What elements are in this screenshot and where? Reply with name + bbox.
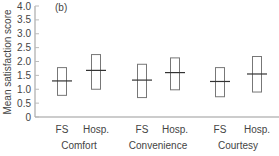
- y-tick-label: 2.0: [17, 56, 31, 67]
- y-tick-label: 0.5: [17, 98, 31, 109]
- y-tick-label: 3.5: [17, 14, 31, 25]
- group-label: Courtesy: [218, 140, 258, 151]
- y-tick-label: 1.5: [17, 70, 31, 81]
- group-label: Convenience: [129, 140, 188, 151]
- y-tick-label: 3.0: [17, 28, 31, 39]
- box: [171, 58, 180, 90]
- y-axis-label: Mean satisfaction score: [2, 9, 13, 114]
- axes: 00.51.01.52.02.53.03.54.0: [17, 1, 279, 123]
- x-tick-label: Hosp.: [244, 124, 270, 135]
- group-label: Comfort: [61, 140, 97, 151]
- y-tick-label: 2.5: [17, 42, 31, 53]
- y-tick-label: 1.0: [17, 84, 31, 95]
- box: [92, 55, 101, 90]
- x-tick-label: Hosp.: [162, 124, 188, 135]
- box: [138, 64, 147, 97]
- y-tick-label: 0: [25, 112, 31, 123]
- boxes: [52, 55, 267, 98]
- x-tick-label: FS: [56, 124, 69, 135]
- x-labels: FSHosp.ComfortFSHosp.ConvenienceFSHosp.C…: [56, 124, 270, 151]
- panel-label: (b): [55, 2, 67, 13]
- x-tick-label: FS: [214, 124, 227, 135]
- x-tick-label: FS: [136, 124, 149, 135]
- box: [216, 68, 225, 97]
- y-tick-label: 4.0: [17, 1, 31, 12]
- x-tick-label: Hosp.: [83, 124, 109, 135]
- box-chart: Mean satisfaction score (b) 00.51.01.52.…: [0, 0, 279, 156]
